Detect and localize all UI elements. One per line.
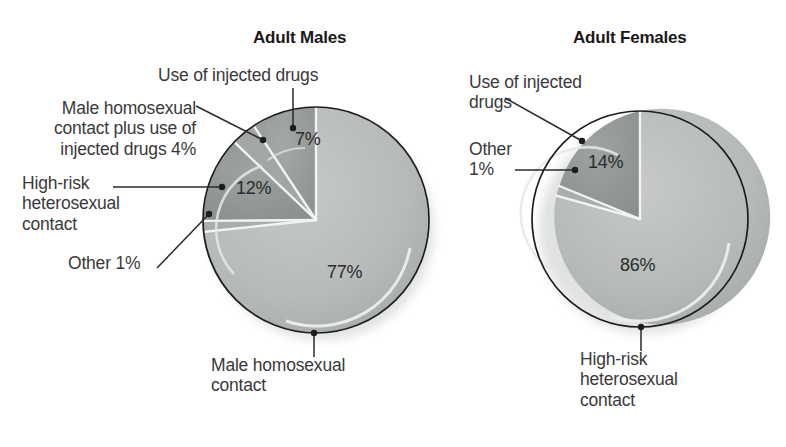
callout-male-other: Other 1%: [68, 253, 140, 273]
pct-label-male-high-risk-heterosexual: 12%: [236, 178, 271, 199]
pct-label-female-high-risk-heterosexual: 86%: [620, 255, 655, 276]
pct-label-male-homosexual-contact: 77%: [327, 262, 362, 283]
callout-female-other: Other 1%: [469, 139, 512, 180]
pct-label-female-use-of-injected-drugs: 14%: [588, 152, 623, 173]
chart-title-adult-males: Adult Males: [253, 28, 346, 48]
figure-canvas: Adult Males Adult Females Use of injecte…: [0, 0, 786, 447]
leader-male-homosexual-contact: [311, 330, 317, 357]
callout-male-homosexual-contact: Male homosexual contact: [211, 355, 345, 396]
chart-title-adult-females: Adult Females: [573, 28, 687, 48]
callout-male-homosexual-plus-injected-drugs: Male homosexual contact plus use of inje…: [18, 98, 196, 159]
pct-label-male-use-of-injected-drugs: 7%: [295, 129, 320, 150]
callout-female-use-of-injected-drugs: Use of injected drugs: [469, 72, 582, 113]
leader-female-high-risk-heterosexual: [638, 324, 644, 351]
callout-male-high-risk-heterosexual-contact: High-risk heterosexual contact: [22, 173, 120, 234]
callout-female-high-risk-heterosexual-contact: High-risk heterosexual contact: [580, 349, 678, 410]
callout-male-use-of-injected-drugs: Use of injected drugs: [158, 65, 318, 85]
adult-females-pie: [521, 109, 770, 327]
